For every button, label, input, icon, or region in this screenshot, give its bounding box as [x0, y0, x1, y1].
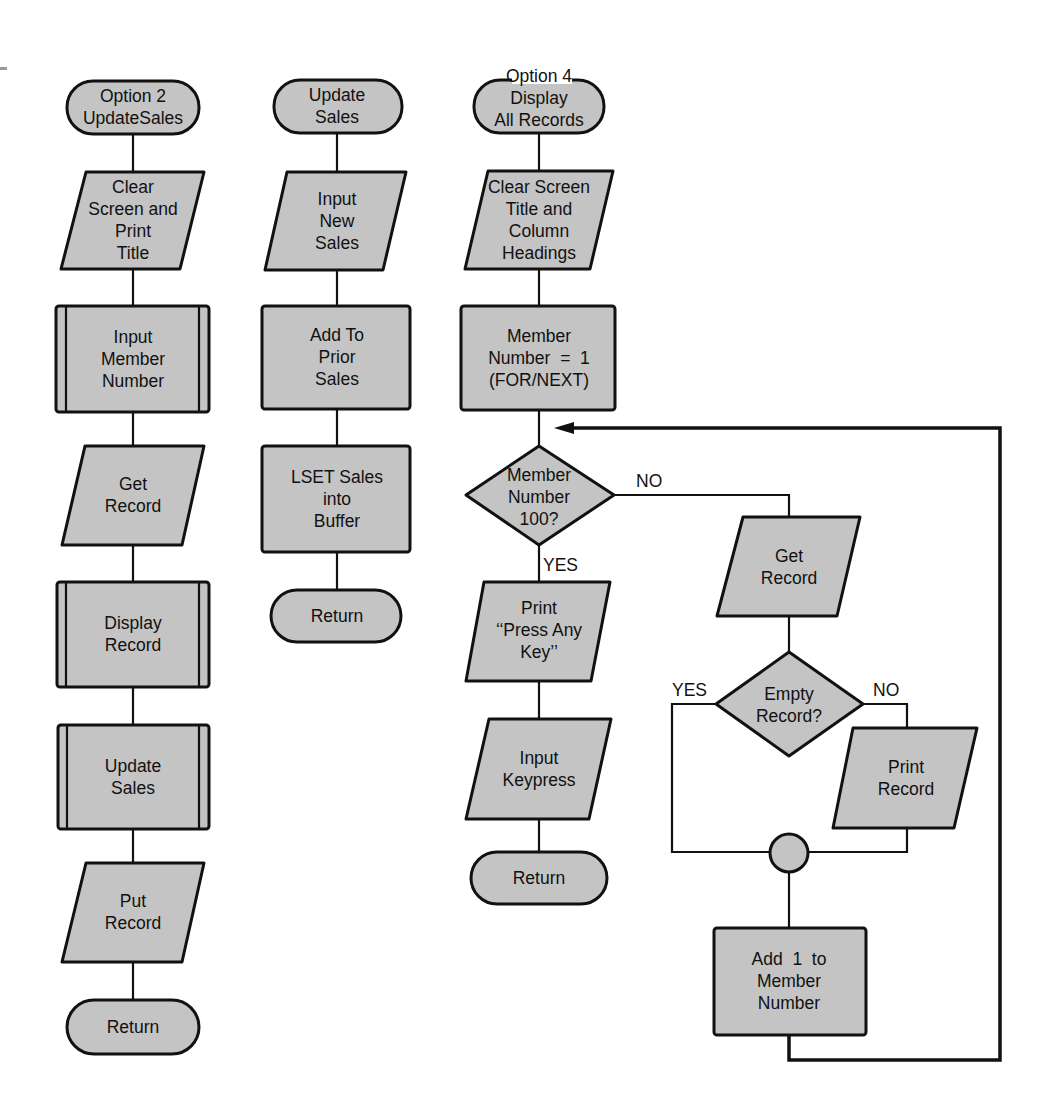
- label-clear-headings: Clear Screen Title and Column Headings: [488, 176, 590, 264]
- label-print-record: Print Record: [878, 756, 934, 800]
- edge-label-no-1: NO: [636, 471, 662, 492]
- label-put-record: Put Record: [105, 890, 161, 934]
- label-get-record: Get Record: [105, 473, 161, 517]
- label-member-init: Member Number = 1 (FOR/NEXT): [488, 325, 590, 391]
- label-return-2: Return: [311, 605, 364, 627]
- label-lset: LSET Sales into Buffer: [291, 466, 383, 532]
- label-update-sales-start: Update Sales: [309, 84, 365, 128]
- label-get-record-2: Get Record: [761, 545, 817, 589]
- label-option2: Option 2 UpdateSales: [83, 85, 183, 129]
- label-return-3: Return: [513, 867, 566, 889]
- flowchart-canvas: [0, 0, 1046, 1105]
- label-return-1: Return: [107, 1016, 160, 1038]
- label-member-100: Member Number 100?: [507, 464, 571, 530]
- label-empty-record: Empty Record?: [756, 683, 822, 727]
- connector-circle: [770, 834, 808, 872]
- edge-label-yes-2: YES: [672, 680, 707, 701]
- label-display-record: Display Record: [104, 612, 161, 656]
- edge-label-no-2: NO: [873, 680, 899, 701]
- label-option4: Option 4 Display All Records: [494, 65, 583, 131]
- label-input-member: Input Member Number: [101, 326, 165, 392]
- label-add-prior: Add To Prior Sales: [310, 324, 364, 390]
- label-clear-screen: Clear Screen and Print Title: [88, 176, 178, 264]
- label-press-any-key: Print ‘‘Press Any Key’’: [496, 597, 582, 663]
- label-update-sales: Update Sales: [105, 755, 161, 799]
- arrowhead-icon: [554, 422, 574, 434]
- label-add-one: Add 1 to Member Number: [752, 948, 827, 1014]
- edge-label-yes-1: YES: [543, 555, 578, 576]
- label-input-new-sales: Input New Sales: [315, 188, 359, 254]
- label-input-keypress: Input Keypress: [503, 747, 576, 791]
